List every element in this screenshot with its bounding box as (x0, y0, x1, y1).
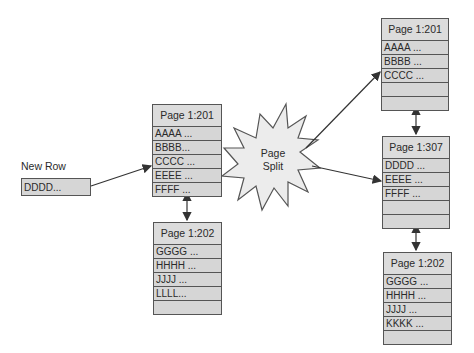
page-row (382, 83, 448, 97)
page-row: CCCC ... (153, 155, 221, 169)
arrow-split-to-page-201 (306, 72, 380, 148)
page-title: Page 1:307 (383, 137, 449, 159)
page-row (383, 201, 449, 215)
page-box-after-307: Page 1:307 DDDD ... EEEE ... FFFF ... (382, 136, 450, 229)
page-split-label: Page Split (248, 147, 298, 173)
page-row: EEEE ... (153, 169, 221, 183)
page-row (154, 301, 221, 314)
page-row: CCCC ... (382, 69, 448, 83)
page-row (383, 215, 449, 228)
new-row-label: New Row (21, 160, 66, 172)
page-row: FFFF ... (153, 183, 221, 196)
page-row: BBBB... (153, 141, 221, 155)
page-row: DDDD ... (383, 159, 449, 173)
page-row: JJJJ ... (384, 303, 451, 317)
arrow-split-to-page-307 (312, 166, 381, 181)
page-box-before-202: Page 1:202 GGGG ... HHHH ... JJJJ ... LL… (153, 222, 222, 315)
page-box-after-202: Page 1:202 GGGG ... HHHH ... JJJJ ... KK… (383, 252, 452, 345)
page-title: Page 1:202 (384, 253, 451, 275)
page-row: JJJJ ... (154, 273, 221, 287)
split-label-line1: Page (248, 147, 298, 160)
split-label-line2: Split (248, 160, 298, 173)
page-row: AAAA ... (382, 41, 448, 55)
page-row: KKKK ... (384, 317, 451, 331)
page-row (384, 331, 451, 344)
page-row: GGGG ... (384, 275, 451, 289)
page-box-after-201: Page 1:201 AAAA ... BBBB ... CCCC ... (381, 18, 449, 111)
page-row: AAAA ... (153, 127, 221, 141)
page-row: HHHH ... (154, 259, 221, 273)
arrow-newrow-to-page (91, 166, 151, 186)
page-row (382, 97, 448, 110)
page-row: GGGG ... (154, 245, 221, 259)
page-row: BBBB ... (382, 55, 448, 69)
page-title: Page 1:201 (153, 105, 221, 127)
page-title: Page 1:202 (154, 223, 221, 245)
page-title: Page 1:201 (382, 19, 448, 41)
page-box-before-201: Page 1:201 AAAA ... BBBB... CCCC ... EEE… (152, 104, 222, 197)
page-row: EEEE ... (383, 173, 449, 187)
page-row: LLLL... (154, 287, 221, 301)
page-row: HHHH ... (384, 289, 451, 303)
new-row-box: DDDD... (21, 178, 91, 196)
page-row: FFFF ... (383, 187, 449, 201)
